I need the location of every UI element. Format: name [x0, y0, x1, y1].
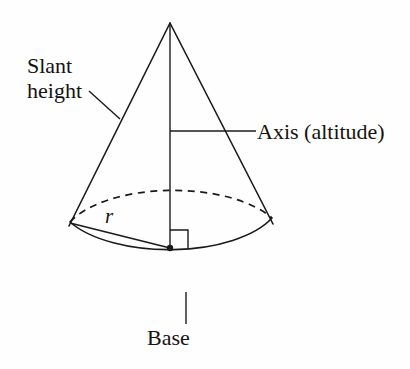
label-axis-altitude: Axis (altitude): [257, 120, 385, 145]
right-angle-marker: [170, 230, 188, 248]
label-slant-height-line2: height: [27, 79, 82, 104]
slant-height-leader-line: [89, 91, 120, 119]
base-center-point: [167, 245, 173, 251]
label-slant-height: Slant height: [27, 54, 82, 103]
base-ellipse-hidden-arc: [70, 190, 272, 222]
label-slant-height-line1: Slant: [27, 54, 82, 79]
cone-diagram: Slant height Axis (altitude) Base r: [0, 0, 410, 369]
base-ellipse-front-arc: [70, 218, 272, 250]
label-radius: r: [105, 205, 113, 229]
label-base: Base: [147, 326, 190, 351]
slant-edge-left: [69, 23, 170, 226]
